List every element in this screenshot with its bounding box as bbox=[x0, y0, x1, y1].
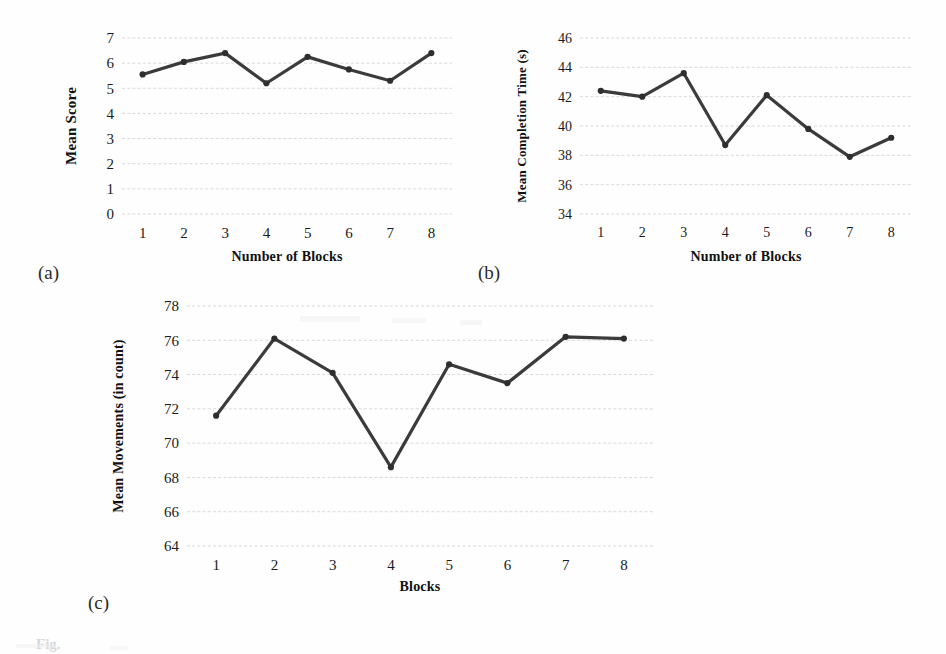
data-point bbox=[681, 70, 687, 76]
y-tick-label: 6 bbox=[107, 55, 115, 71]
scan-artifact bbox=[392, 318, 426, 323]
y-tick-label: 3 bbox=[107, 131, 115, 147]
data-point bbox=[428, 50, 434, 56]
subfigure-label-b: (b) bbox=[478, 262, 500, 284]
x-tick-label: 1 bbox=[597, 225, 604, 240]
x-tick-label: 7 bbox=[846, 225, 853, 240]
data-point bbox=[847, 154, 853, 160]
x-tick-label: 6 bbox=[504, 557, 512, 573]
x-tick-label: 4 bbox=[722, 225, 729, 240]
series-line bbox=[216, 337, 624, 467]
data-point bbox=[388, 464, 394, 470]
data-point bbox=[722, 142, 728, 148]
y-tick-label: 78 bbox=[164, 298, 179, 314]
y-tick-label: 64 bbox=[164, 538, 180, 554]
y-tick-label: 1 bbox=[107, 181, 115, 197]
y-tick-label: 5 bbox=[107, 81, 115, 97]
x-tick-label: 5 bbox=[445, 557, 453, 573]
data-point bbox=[213, 413, 219, 419]
y-tick-label: 76 bbox=[164, 333, 180, 349]
x-tick-label: 8 bbox=[428, 225, 436, 241]
y-tick-label: 74 bbox=[164, 367, 180, 383]
y-tick-label: 46 bbox=[558, 31, 572, 46]
data-point bbox=[598, 88, 604, 94]
y-tick-label: 40 bbox=[558, 119, 572, 134]
y-axis-title: Mean Score bbox=[63, 87, 79, 165]
data-point bbox=[621, 335, 627, 341]
y-tick-label: 7 bbox=[107, 30, 115, 46]
data-point bbox=[346, 66, 352, 72]
data-point bbox=[263, 80, 269, 86]
x-tick-label: 4 bbox=[263, 225, 271, 241]
x-tick-label: 8 bbox=[888, 225, 895, 240]
figure-page: 0123456712345678Number of BlocksMean Sco… bbox=[0, 0, 946, 654]
y-tick-label: 36 bbox=[558, 178, 572, 193]
y-tick-label: 42 bbox=[558, 90, 572, 105]
x-axis-title: Number of Blocks bbox=[231, 249, 342, 264]
data-point bbox=[140, 71, 146, 77]
chart-panel-c: 646668707274767812345678BlocksMean Movem… bbox=[105, 288, 665, 598]
x-axis-title: Number of Blocks bbox=[690, 249, 801, 264]
chart-panel-b: 3436384042444612345678Number of BlocksMe… bbox=[512, 18, 922, 268]
y-tick-label: 68 bbox=[164, 470, 179, 486]
data-point bbox=[764, 92, 770, 98]
data-point bbox=[387, 78, 393, 84]
x-tick-label: 5 bbox=[304, 225, 312, 241]
x-tick-label: 3 bbox=[680, 225, 687, 240]
x-tick-label: 7 bbox=[562, 557, 570, 573]
y-axis-title: Mean Completion Time (s) bbox=[514, 49, 529, 202]
y-tick-label: 38 bbox=[558, 148, 572, 163]
x-tick-label: 8 bbox=[620, 557, 628, 573]
y-tick-label: 70 bbox=[164, 435, 179, 451]
subfigure-label-a: (a) bbox=[38, 262, 59, 284]
y-tick-label: 66 bbox=[164, 504, 180, 520]
y-tick-label: 4 bbox=[107, 106, 115, 122]
x-tick-label: 3 bbox=[329, 557, 337, 573]
x-tick-label: 6 bbox=[345, 225, 353, 241]
x-tick-label: 5 bbox=[763, 225, 770, 240]
y-tick-label: 2 bbox=[107, 156, 115, 172]
data-point bbox=[181, 59, 187, 65]
series-line bbox=[601, 73, 892, 157]
chart-c-svg: 646668707274767812345678BlocksMean Movem… bbox=[105, 288, 665, 598]
x-tick-label: 4 bbox=[387, 557, 395, 573]
chart-b-svg: 3436384042444612345678Number of BlocksMe… bbox=[512, 18, 922, 268]
chart-a-svg: 0123456712345678Number of BlocksMean Sco… bbox=[62, 18, 462, 268]
data-point bbox=[639, 94, 645, 100]
x-tick-label: 1 bbox=[212, 557, 220, 573]
scan-artifact bbox=[300, 316, 360, 322]
subfigure-label-c: (c) bbox=[88, 592, 109, 614]
data-point bbox=[271, 335, 277, 341]
data-point bbox=[222, 50, 228, 56]
x-tick-label: 2 bbox=[271, 557, 279, 573]
data-point bbox=[888, 135, 894, 141]
x-tick-label: 1 bbox=[139, 225, 147, 241]
data-point bbox=[305, 54, 311, 60]
data-point bbox=[446, 361, 452, 367]
data-point bbox=[330, 370, 336, 376]
scan-artifact bbox=[460, 320, 482, 325]
y-tick-label: 44 bbox=[558, 60, 572, 75]
x-axis-title: Blocks bbox=[400, 579, 441, 594]
x-tick-label: 2 bbox=[639, 225, 646, 240]
x-tick-label: 7 bbox=[386, 225, 394, 241]
chart-panel-a: 0123456712345678Number of BlocksMean Sco… bbox=[62, 18, 462, 268]
scan-artifact bbox=[16, 644, 56, 648]
data-point bbox=[504, 380, 510, 386]
data-point bbox=[805, 126, 811, 132]
x-tick-label: 6 bbox=[805, 225, 812, 240]
y-tick-label: 72 bbox=[164, 401, 179, 417]
y-tick-label: 0 bbox=[107, 206, 115, 222]
scan-artifact bbox=[110, 646, 128, 650]
y-axis-title: Mean Movements (in count) bbox=[111, 339, 127, 513]
data-point bbox=[563, 334, 569, 340]
x-tick-label: 2 bbox=[180, 225, 188, 241]
x-tick-label: 3 bbox=[221, 225, 229, 241]
y-tick-label: 34 bbox=[558, 207, 572, 222]
